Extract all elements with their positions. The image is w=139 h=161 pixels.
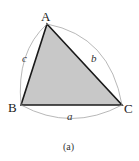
figure-caption: (a): [63, 141, 74, 153]
triangle-diagram: A B C c b a (a): [0, 0, 139, 161]
vertex-label-c: C: [124, 101, 133, 116]
vertex-label-a: A: [41, 9, 51, 24]
side-label-a: a: [67, 110, 73, 122]
side-label-b: b: [91, 52, 97, 64]
side-label-c: c: [22, 52, 27, 64]
vertex-label-b: B: [8, 100, 17, 115]
